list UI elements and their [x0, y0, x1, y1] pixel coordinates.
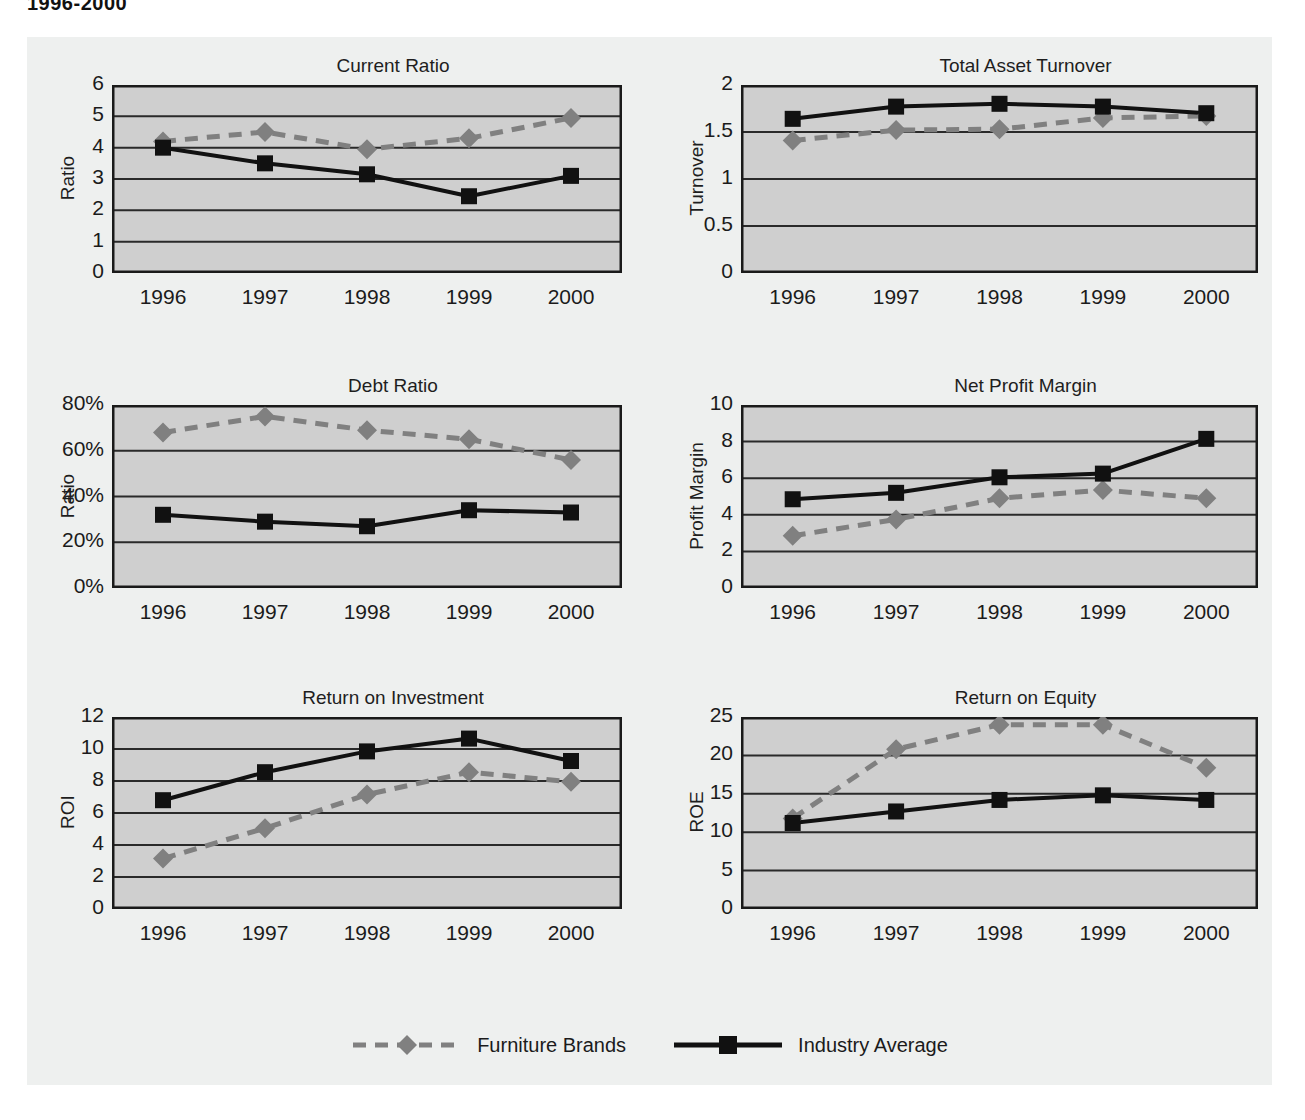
x-axis-tick-label: 1998 — [945, 600, 1055, 624]
y-axis-label: Turnover — [686, 108, 708, 248]
data-point-industry-average — [1198, 792, 1214, 808]
y-axis-tick-label: 0 — [60, 259, 104, 283]
data-point-industry-average — [461, 731, 477, 747]
x-axis-tick-label: 1998 — [312, 921, 422, 945]
x-axis-tick-label: 1997 — [210, 921, 320, 945]
plot-area-debt-ratio — [112, 405, 622, 588]
x-axis-tick-label: 1997 — [841, 921, 951, 945]
data-point-industry-average — [1198, 105, 1214, 121]
chart-current-ratio: Current Ratio012345619961997199819992000… — [60, 55, 622, 323]
chart-title-total-asset-turnover: Total Asset Turnover — [689, 55, 1305, 77]
x-axis-tick-label: 1998 — [312, 285, 422, 309]
chart-title-return-on-investment: Return on Investment — [60, 687, 674, 709]
data-point-industry-average — [359, 166, 375, 182]
data-point-industry-average — [257, 514, 273, 530]
data-point-industry-average — [1095, 466, 1111, 482]
x-axis-tick-label: 2000 — [516, 600, 626, 624]
data-point-industry-average — [155, 507, 171, 523]
x-axis-tick-label: 1999 — [1048, 285, 1158, 309]
chart-title-debt-ratio: Debt Ratio — [60, 375, 674, 397]
chart-return-on-investment: Return on Investment02468101219961997199… — [60, 687, 622, 959]
legend-label: Furniture Brands — [477, 1034, 626, 1057]
data-point-industry-average — [1095, 787, 1111, 803]
chart-net-profit-margin: Net Profit Margin02468101996199719981999… — [689, 375, 1258, 638]
x-axis-tick-label: 1997 — [210, 600, 320, 624]
legend-item-furniture-brands[interactable]: Furniture Brands — [351, 1032, 626, 1058]
legend-item-industry-average[interactable]: Industry Average — [672, 1032, 948, 1058]
x-axis-tick-label: 1996 — [738, 285, 848, 309]
chart-return-on-equity: Return on Equity051015202519961997199819… — [689, 687, 1258, 959]
y-axis-tick-label: 25 — [689, 703, 733, 727]
x-axis-tick-label: 1998 — [945, 921, 1055, 945]
plot-area-current-ratio — [112, 85, 622, 273]
y-axis-tick-label: 0 — [689, 895, 733, 919]
y-axis-tick-label: 80% — [60, 391, 104, 415]
x-axis-tick-label: 1998 — [945, 285, 1055, 309]
x-axis-tick-label: 2000 — [1151, 921, 1261, 945]
x-axis-tick-label: 1998 — [312, 600, 422, 624]
x-axis-tick-label: 1999 — [414, 600, 524, 624]
x-axis-tick-label: 2000 — [1151, 600, 1261, 624]
chart-debt-ratio: Debt Ratio0%20%40%60%80%1996199719981999… — [60, 375, 622, 638]
data-point-industry-average — [563, 505, 579, 521]
x-axis-tick-label: 1999 — [1048, 921, 1158, 945]
data-point-industry-average — [461, 188, 477, 204]
data-point-industry-average — [888, 485, 904, 501]
x-axis-tick-label: 1997 — [841, 600, 951, 624]
y-axis-tick-label: 6 — [60, 71, 104, 95]
data-point-industry-average — [359, 518, 375, 534]
y-axis-label: Ratio — [57, 426, 79, 566]
y-axis-tick-label: 0 — [689, 259, 733, 283]
y-axis-tick-label: 12 — [60, 703, 104, 727]
plot-area-net-profit-margin — [741, 405, 1258, 588]
data-point-industry-average — [785, 111, 801, 127]
x-axis-tick-label: 1999 — [414, 285, 524, 309]
y-axis-tick-label: 0 — [60, 895, 104, 919]
plot-background — [741, 717, 1258, 909]
data-point-industry-average — [257, 764, 273, 780]
data-point-industry-average — [785, 491, 801, 507]
x-axis-tick-label: 2000 — [516, 285, 626, 309]
page-title: 1996-2000 — [27, 0, 127, 15]
x-axis-tick-label: 1996 — [738, 600, 848, 624]
x-axis-tick-label: 1999 — [414, 921, 524, 945]
x-axis-tick-label: 2000 — [516, 921, 626, 945]
chart-legend: Furniture BrandsIndustry Average — [27, 1032, 1272, 1058]
chart-title-return-on-equity: Return on Equity — [689, 687, 1305, 709]
data-point-industry-average — [359, 743, 375, 759]
data-point-industry-average — [992, 792, 1008, 808]
y-axis-label: ROE — [686, 742, 708, 882]
data-point-industry-average — [155, 140, 171, 156]
x-axis-tick-label: 1999 — [1048, 600, 1158, 624]
y-axis-label: ROI — [57, 742, 79, 882]
y-axis-tick-label: 0 — [689, 574, 733, 598]
x-axis-tick-label: 1996 — [738, 921, 848, 945]
chart-total-asset-turnover: Total Asset Turnover00.511.5219961997199… — [689, 55, 1258, 323]
data-point-industry-average — [1198, 431, 1214, 447]
plot-area-total-asset-turnover — [741, 85, 1258, 273]
x-axis-tick-label: 2000 — [1151, 285, 1261, 309]
plot-area-return-on-equity — [741, 717, 1258, 909]
x-axis-tick-label: 1996 — [108, 285, 218, 309]
y-axis-label: Profit Margin — [686, 426, 708, 566]
y-axis-label: Ratio — [57, 108, 79, 248]
chart-title-net-profit-margin: Net Profit Margin — [689, 375, 1305, 397]
x-axis-tick-label: 1997 — [210, 285, 320, 309]
data-point-industry-average — [992, 469, 1008, 485]
y-axis-tick-label: 2 — [689, 71, 733, 95]
data-point-industry-average — [992, 96, 1008, 112]
legend-swatch-square-icon — [672, 1032, 784, 1058]
data-point-industry-average — [563, 753, 579, 769]
x-axis-tick-label: 1996 — [108, 921, 218, 945]
legend-label: Industry Average — [798, 1034, 948, 1057]
data-point-industry-average — [461, 502, 477, 518]
y-axis-tick-label: 10 — [689, 391, 733, 415]
data-point-industry-average — [155, 792, 171, 808]
data-point-industry-average — [1095, 99, 1111, 115]
x-axis-tick-label: 1997 — [841, 285, 951, 309]
data-point-industry-average — [785, 815, 801, 831]
data-point-industry-average — [888, 99, 904, 115]
x-axis-tick-label: 1996 — [108, 600, 218, 624]
data-point-industry-average — [563, 168, 579, 184]
legend-swatch-diamond-icon — [351, 1032, 463, 1058]
